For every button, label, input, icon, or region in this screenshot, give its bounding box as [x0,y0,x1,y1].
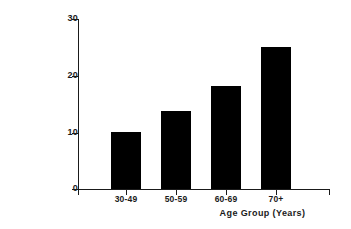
y-tick-mark-10 [72,133,78,134]
y-tick-mark-30 [72,19,78,20]
y-axis-line [78,19,79,190]
bar-60-69 [211,86,241,189]
y-tick-mark-20 [72,76,78,77]
x-axis-line [78,189,330,190]
x-tick-label-70-plus: 70+ [245,194,307,204]
bar-30-49 [111,132,141,189]
bar-chart-figure: Incidence Rate per 1000 per year 30 20 1… [0,0,351,229]
x-tick-mark-end [329,190,330,195]
y-axis-title: Incidence Rate per 1000 per year [10,0,40,28]
x-axis-title: Age Group (Years) [190,208,335,218]
x-tick-mark-start [78,190,79,195]
bar-70-plus [261,47,291,189]
bar-50-59 [161,111,191,189]
